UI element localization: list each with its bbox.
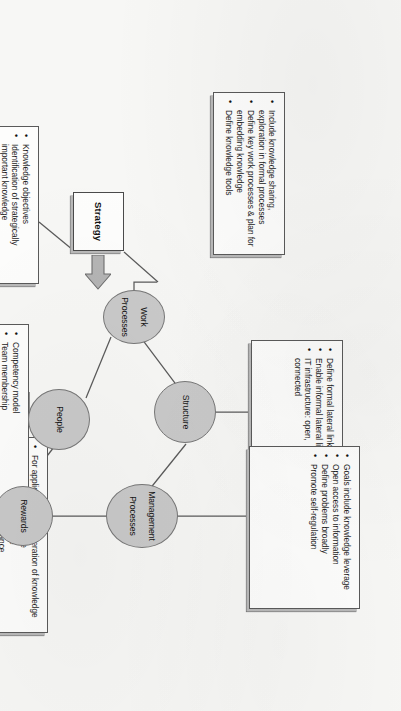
- diagram-canvas: Include knowledge sharing, exploration i…: [0, 0, 401, 711]
- management-processes-notes-list: Goals include knowledge leverage Open ac…: [309, 453, 352, 601]
- node-work-processes[interactable]: Work Processes: [103, 290, 165, 344]
- node-people[interactable]: People: [28, 389, 90, 450]
- node-management-processes[interactable]: Management Processes: [106, 484, 178, 548]
- node-label-line1: People: [54, 406, 64, 432]
- list-item: Team membership: [0, 331, 10, 506]
- node-label-line2: Processes: [128, 491, 138, 541]
- leader-strategy-top: [124, 252, 158, 282]
- list-item: Open access to information: [331, 453, 341, 601]
- management-processes-notes-box: Goals include knowledge leverage Open ac…: [249, 446, 360, 609]
- leader-strategy-notes: [39, 222, 73, 250]
- list-item: Goals include knowledge leverage: [342, 453, 352, 601]
- strategy-notes-list: Knowledge objectives Identification of s…: [0, 133, 31, 276]
- node-label-line1: Management: [147, 491, 157, 541]
- people-notes-list: Competency model Team membership Develop…: [0, 331, 21, 506]
- node-structure[interactable]: Structure: [154, 381, 216, 443]
- list-item: Define knowledge tools: [224, 99, 234, 247]
- strategy-label: Strategy: [93, 202, 104, 241]
- node-label-line1: Work: [139, 297, 149, 337]
- list-item: Define key work processes & plan for emb…: [235, 99, 256, 247]
- strategy-notes-box: Knowledge objectives Identification of s…: [0, 126, 39, 284]
- node-label-line1: Structure: [180, 395, 190, 429]
- strategy-arrow-icon: [85, 255, 111, 290]
- list-item: Competency model: [11, 331, 21, 506]
- list-item: Identification of strategically importan…: [0, 133, 20, 276]
- list-item: Define problems broadly: [320, 453, 330, 601]
- edge-structure-management: [149, 444, 186, 490]
- node-label-line1: Rewards: [18, 499, 28, 533]
- strategy-box: Strategy: [73, 192, 124, 251]
- node-label-line2: Processes: [120, 297, 130, 337]
- list-item: Include knowledge sharing, exploration i…: [256, 99, 277, 247]
- list-item: Knowledge objectives: [21, 133, 31, 276]
- list-item: Promote self-regulation: [309, 453, 319, 601]
- work-processes-notes-list: Include knowledge sharing, exploration i…: [224, 99, 277, 247]
- edge-people-work: [86, 337, 111, 398]
- work-processes-notes-box: Include knowledge sharing, exploration i…: [213, 92, 285, 255]
